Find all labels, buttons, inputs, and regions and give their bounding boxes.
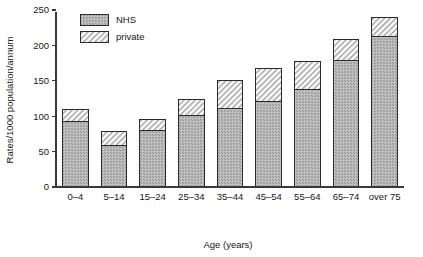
x-tick-label: 25–34 (178, 191, 204, 202)
bar-group (63, 110, 89, 187)
bar-group (101, 132, 127, 187)
bar-segment-nhs (140, 130, 166, 187)
x-tick-label: 0–4 (67, 191, 83, 202)
bar-segment-private (217, 80, 243, 108)
bar-group (140, 119, 166, 187)
legend-label-nhs: NHS (116, 14, 136, 25)
bar-segment-nhs (217, 108, 243, 187)
bar-segment-private (372, 18, 398, 37)
y-tick-label: 250 (33, 4, 49, 15)
legend-swatch-nhs (80, 14, 108, 25)
bar-group (295, 62, 321, 187)
y-tick-label: 200 (33, 40, 49, 51)
y-tick-label: 0 (44, 181, 49, 192)
bar-segment-private (140, 119, 166, 130)
stacked-bar-chart: 0–45–1415–2425–3435–4445–5455–6465–74ove… (0, 0, 423, 257)
bar-group (372, 18, 398, 187)
bar-group (256, 68, 282, 187)
chart-container: 0–45–1415–2425–3435–4445–5455–6465–74ove… (0, 0, 423, 257)
x-tick-label: over 75 (369, 191, 401, 202)
bar-segment-private (179, 99, 205, 115)
x-tick-label: 45–54 (255, 191, 281, 202)
bar-segment-private (295, 62, 321, 90)
bar-segment-private (63, 110, 89, 121)
bar-segment-nhs (295, 89, 321, 187)
bar-segment-nhs (101, 145, 127, 187)
bar-segment-nhs (179, 115, 205, 187)
x-tick-label: 65–74 (333, 191, 359, 202)
y-tick-labels: 050100150200250 (33, 4, 49, 192)
bar-segment-nhs (333, 60, 359, 187)
legend: NHS private (80, 14, 145, 42)
bar-group (179, 99, 205, 187)
y-tick-label: 50 (38, 146, 49, 157)
bar-segment-nhs (63, 121, 89, 187)
bar-segment-private (333, 39, 359, 60)
y-axis-title: Rates/1000 population/annum (4, 37, 15, 164)
x-axis-title: Age (years) (203, 239, 252, 250)
x-tick-label: 5–14 (103, 191, 124, 202)
bar-group (217, 80, 243, 187)
y-tick-label: 150 (33, 75, 49, 86)
bar-group (333, 39, 359, 187)
bar-segment-nhs (372, 37, 398, 187)
x-tick-labels: 0–45–1415–2425–3435–4445–5455–6465–74ove… (67, 191, 400, 202)
legend-swatch-private (80, 31, 108, 42)
legend-label-private: private (116, 31, 145, 42)
bar-segment-nhs (256, 101, 282, 187)
bar-segment-private (101, 132, 127, 145)
bar-segment-private (256, 68, 282, 101)
x-tick-label: 55–64 (294, 191, 320, 202)
y-tick-label: 100 (33, 111, 49, 122)
x-tick-label: 35–44 (217, 191, 243, 202)
bars-layer (63, 18, 398, 187)
x-tick-label: 15–24 (139, 191, 165, 202)
